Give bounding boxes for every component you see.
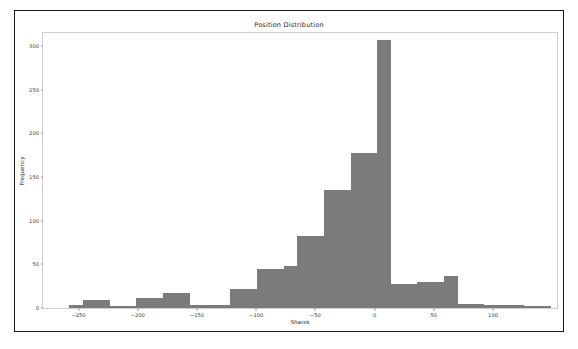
- y-tick-label: 250: [29, 87, 43, 93]
- histogram-bars: [43, 33, 557, 308]
- histogram-bar: [431, 282, 444, 308]
- plot-area: Frequency Shares 050100150200250300 −250…: [42, 32, 558, 309]
- histogram-bar: [511, 305, 524, 308]
- x-tick-label: −50: [310, 312, 321, 318]
- x-tick-label: −100: [249, 312, 263, 318]
- histogram-bar: [458, 304, 471, 308]
- histogram-bar: [150, 298, 163, 308]
- x-tick-mark: [78, 308, 79, 311]
- y-tick-label: 300: [29, 43, 43, 49]
- histogram-bar: [69, 305, 82, 308]
- histogram-bar: [243, 289, 256, 308]
- histogram-bar: [444, 276, 457, 308]
- histogram-bar: [123, 306, 136, 308]
- y-tick-label: 0: [36, 305, 43, 311]
- histogram-bar: [524, 306, 537, 308]
- x-tick-mark: [374, 308, 375, 311]
- histogram-bar: [284, 266, 297, 308]
- histogram-bar: [471, 304, 484, 308]
- histogram-bar: [190, 305, 203, 308]
- x-tick-mark: [433, 308, 434, 311]
- histogram-bar: [270, 269, 283, 308]
- histogram-bar: [110, 306, 123, 308]
- histogram-bar: [297, 236, 310, 308]
- histogram-bar: [203, 305, 216, 308]
- histogram-bar: [83, 300, 96, 308]
- histogram-bar: [177, 293, 190, 308]
- x-tick-mark: [137, 308, 138, 311]
- histogram-bar: [364, 153, 377, 308]
- histogram-bar: [163, 293, 176, 308]
- y-axis-label: Frequency: [19, 156, 25, 185]
- histogram-bar: [310, 236, 323, 308]
- x-tick-mark: [493, 308, 494, 311]
- histogram-bar: [391, 284, 404, 308]
- x-tick-label: 50: [431, 312, 438, 318]
- x-axis-label: Shares: [43, 319, 557, 325]
- x-tick-mark: [315, 308, 316, 311]
- chart-title: Position Distribution: [15, 21, 563, 29]
- y-tick-label: 100: [29, 218, 43, 224]
- x-tick-label: −200: [131, 312, 145, 318]
- y-tick-label: 150: [29, 174, 43, 180]
- x-tick-label: 100: [488, 312, 498, 318]
- x-tick-label: −150: [190, 312, 204, 318]
- histogram-bar: [257, 269, 270, 308]
- histogram-bar: [96, 300, 109, 308]
- histogram-bar: [484, 305, 497, 308]
- figure-panel: Position Distribution Frequency Shares 0…: [14, 10, 564, 332]
- y-tick-label: 50: [32, 261, 43, 267]
- histogram-bar: [351, 153, 364, 308]
- histogram-bar: [498, 305, 511, 308]
- x-tick-label: 0: [373, 312, 376, 318]
- histogram-bar: [136, 298, 149, 308]
- histogram-bar: [377, 40, 390, 308]
- x-tick-mark: [196, 308, 197, 311]
- histogram-bar: [417, 282, 430, 308]
- x-tick-mark: [256, 308, 257, 311]
- histogram-bar: [217, 305, 230, 308]
- x-tick-label: −250: [71, 312, 85, 318]
- histogram-bar: [324, 190, 337, 308]
- y-tick-label: 200: [29, 130, 43, 136]
- histogram-bar: [538, 306, 551, 308]
- histogram-bar: [230, 289, 243, 308]
- histogram-bar: [337, 190, 350, 308]
- histogram-bar: [404, 284, 417, 308]
